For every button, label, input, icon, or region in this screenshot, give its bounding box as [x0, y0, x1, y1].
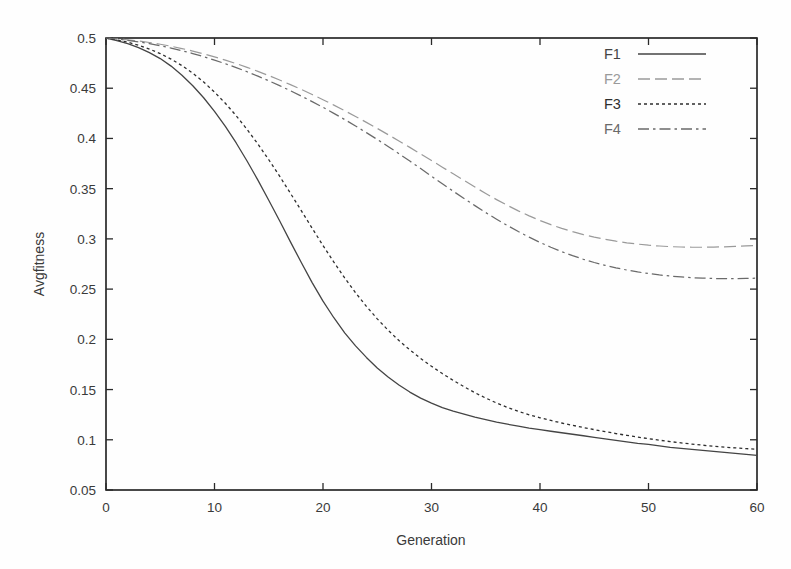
chart-legend: F1F2F3F4: [604, 46, 706, 137]
x-axis-title: Generation: [396, 532, 465, 548]
series-line-f3: [106, 38, 757, 449]
x-tick-label: 30: [424, 500, 439, 515]
y-axis-ticks: [106, 38, 757, 490]
plot-frame: [106, 38, 757, 490]
line-chart: 0102030405060 0.050.10.150.20.250.30.350…: [0, 0, 791, 569]
y-tick-label: 0.1: [77, 433, 96, 448]
series-line-f4: [106, 38, 757, 279]
legend-label-f4: F4: [604, 121, 621, 137]
series-line-f1: [106, 38, 757, 455]
y-tick-label: 0.2: [77, 332, 96, 347]
legend-label-f2: F2: [604, 71, 621, 87]
x-axis-ticks: [106, 38, 757, 490]
plot-border: [106, 38, 757, 490]
y-tick-label: 0.3: [77, 232, 96, 247]
x-tick-label: 20: [315, 500, 330, 515]
y-axis-title: Avgfitness: [31, 232, 47, 296]
legend-label-f3: F3: [604, 96, 621, 112]
x-tick-label: 60: [749, 500, 764, 515]
y-tick-label: 0.25: [70, 282, 96, 297]
x-tick-label: 10: [207, 500, 222, 515]
y-axis-tick-labels: 0.050.10.150.20.250.30.350.40.450.5: [70, 31, 97, 498]
series-line-f2: [106, 38, 757, 247]
y-tick-label: 0.05: [70, 483, 96, 498]
data-series-group: [106, 38, 757, 455]
x-tick-label: 40: [532, 500, 547, 515]
chart-page: 0102030405060 0.050.10.150.20.250.30.350…: [0, 0, 791, 569]
y-tick-label: 0.45: [70, 81, 96, 96]
x-tick-label: 0: [102, 500, 110, 515]
y-tick-label: 0.15: [70, 383, 96, 398]
y-tick-label: 0.35: [70, 182, 96, 197]
y-tick-label: 0.5: [77, 31, 96, 46]
legend-label-f1: F1: [604, 46, 621, 62]
x-axis-tick-labels: 0102030405060: [102, 500, 764, 515]
y-tick-label: 0.4: [77, 131, 96, 146]
x-tick-label: 50: [641, 500, 656, 515]
